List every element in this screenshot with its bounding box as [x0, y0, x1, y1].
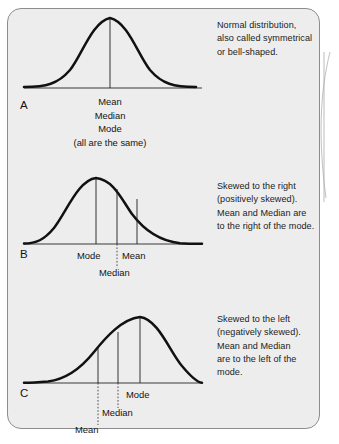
- panel-a-letter: A: [20, 99, 28, 111]
- panel-c-caption: Skewed to the left (negatively skewed). …: [217, 313, 337, 379]
- panel-b-marker-median: Median: [99, 267, 130, 278]
- panel-b: B Mode Mean Median: [0, 170, 230, 290]
- panel-c-curve: [18, 305, 218, 395]
- panel-b-marker-mean: Mean: [122, 250, 145, 261]
- panel-b-letter: B: [20, 248, 28, 260]
- panel-b-curve: [18, 170, 218, 250]
- panel-c: C Mode Median Mean: [0, 305, 230, 440]
- panel-a: A Mean Median Mode (all are the same): [0, 0, 230, 160]
- panel-a-stats-block: Mean Median Mode (all are the same): [45, 95, 175, 149]
- panel-c-marker-mean: Mean: [75, 424, 98, 435]
- panel-c-letter: C: [20, 387, 28, 399]
- panel-c-marker-median: Median: [102, 407, 133, 418]
- panel-a-caption: Normal distribution, also called symmetr…: [217, 19, 335, 59]
- panel-b-caption: Skewed to the right (positively skewed).…: [217, 180, 339, 233]
- panel-b-marker-mode: Mode: [77, 250, 100, 261]
- panel-a-curve: [18, 8, 218, 100]
- panel-c-marker-mode: Mode: [126, 389, 149, 400]
- distribution-shapes-figure: A Mean Median Mode (all are the same) No…: [0, 0, 339, 444]
